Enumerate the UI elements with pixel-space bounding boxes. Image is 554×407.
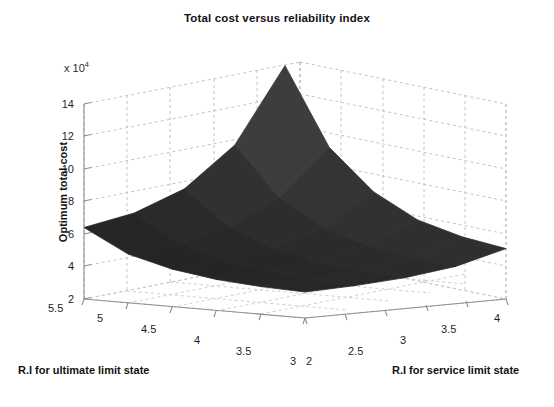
surface-mesh bbox=[84, 66, 506, 293]
y-axis-tick-label: 3 bbox=[290, 355, 296, 367]
x-axis-tick-label: 2 bbox=[306, 355, 312, 367]
x-axis-ticks bbox=[305, 299, 508, 324]
y-axis-title: R.I for ultimate limit state bbox=[18, 364, 149, 376]
x-axis-line bbox=[305, 299, 506, 318]
z-axis-tick-label: 8 bbox=[40, 195, 74, 207]
x-axis-tick-label: 2.5 bbox=[348, 345, 363, 357]
z-axis-tick-label: 10 bbox=[40, 163, 74, 175]
y-axis-ticks bbox=[82, 299, 305, 324]
x-axis-tick-label: 3 bbox=[400, 334, 406, 346]
y-axis-tick-label: 3.5 bbox=[236, 345, 251, 357]
y-axis-line bbox=[84, 299, 305, 318]
x-axis-title: R.I for service limit state bbox=[392, 364, 519, 376]
z-axis-tick-label: 6 bbox=[40, 228, 74, 240]
y-axis-tick-label: 4.5 bbox=[141, 323, 156, 335]
surface-plot-3d bbox=[0, 0, 554, 407]
z-axis-ticks bbox=[84, 103, 91, 300]
y-axis-tick-label: 4 bbox=[194, 334, 200, 346]
x-axis-tick-label: 3.5 bbox=[441, 323, 456, 335]
x-axis-tick-label: 4 bbox=[494, 312, 500, 324]
y-axis-tick-label: 5.5 bbox=[48, 302, 63, 314]
z-axis-tick-label: 12 bbox=[40, 130, 74, 142]
z-axis-tick-label: 14 bbox=[40, 98, 74, 110]
y-axis-tick-label: 5 bbox=[97, 312, 103, 324]
z-axis-tick-label: 4 bbox=[40, 260, 74, 272]
figure-canvas: Total cost versus reliability index x 10… bbox=[0, 0, 554, 407]
